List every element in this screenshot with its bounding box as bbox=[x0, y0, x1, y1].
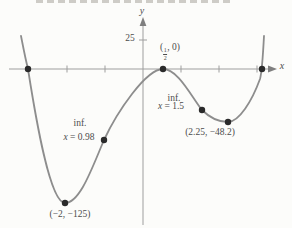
point-x-intercept-left bbox=[25, 66, 31, 72]
point-label-half-zero: (12, 0) bbox=[160, 43, 180, 61]
inflection-left-word: inf. bbox=[74, 119, 87, 129]
y-axis-label: y bbox=[140, 6, 144, 16]
point-label-min-right: (2.25, −48.2) bbox=[185, 128, 235, 138]
graph-plot bbox=[0, 0, 292, 228]
y-tick-label-25: 25 bbox=[125, 34, 135, 44]
point-label-min-left: (−2, −125) bbox=[50, 210, 91, 220]
point-local-max-half bbox=[160, 66, 166, 72]
x-axis-label: x bbox=[280, 61, 284, 71]
x-axis-arrow-icon bbox=[268, 65, 277, 72]
point-min-right bbox=[225, 119, 231, 125]
point-x-intercept-right bbox=[259, 66, 265, 72]
inflection-left-value: x = 0.98 bbox=[64, 133, 95, 143]
paren-rest: , 0) bbox=[167, 42, 180, 52]
y-axis-arrow-icon bbox=[140, 17, 147, 26]
inflection-right-value: x = 1.5 bbox=[158, 102, 184, 112]
figure-canvas: y x 25 (12, 0) inf. x = 0.98 inf. x = 1.… bbox=[0, 0, 292, 228]
point-min-left bbox=[62, 200, 68, 206]
point-inflection-right bbox=[199, 107, 205, 113]
point-inflection-left bbox=[101, 137, 107, 143]
